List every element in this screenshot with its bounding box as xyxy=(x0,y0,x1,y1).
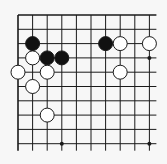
white-stone xyxy=(26,51,40,65)
white-stone xyxy=(142,37,156,51)
black-stone xyxy=(26,37,40,51)
black-stone xyxy=(99,37,113,51)
black-stone xyxy=(55,51,69,65)
white-stone xyxy=(113,65,127,79)
white-stone xyxy=(26,80,40,94)
white-stone xyxy=(40,65,54,79)
board-background xyxy=(0,0,167,164)
black-stone xyxy=(40,51,54,65)
star-point xyxy=(147,142,151,146)
star-point xyxy=(147,56,151,60)
white-stone xyxy=(40,108,54,122)
white-stone xyxy=(11,65,25,79)
go-board xyxy=(0,0,167,164)
white-stone xyxy=(113,37,127,51)
star-point xyxy=(60,142,64,146)
